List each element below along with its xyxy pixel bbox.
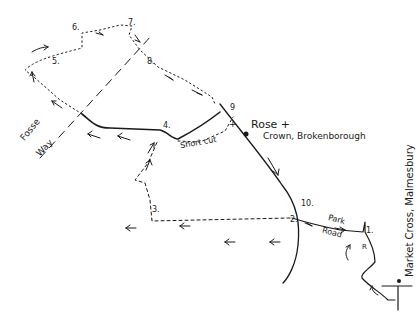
- route-marker-r: R: [362, 243, 367, 251]
- cross-marker: +: [229, 119, 237, 129]
- track-4-to-9: [82, 112, 220, 139]
- waypoint-4: 4.: [163, 121, 171, 130]
- pub-label: Rose +: [251, 118, 290, 131]
- waypoint-9: 9: [230, 103, 235, 112]
- waypoint-3: 3.: [152, 205, 160, 214]
- direction-arrows: [30, 32, 378, 295]
- waypoint-7: 7.: [128, 18, 136, 27]
- market-cross-dot: [397, 279, 401, 283]
- pub-marker: [244, 132, 249, 137]
- waypoint-1: 1.: [366, 226, 374, 235]
- fosse-way-line: [40, 35, 152, 158]
- pub-location-label: Crown, Brokenborough: [263, 131, 366, 141]
- market-cross-label: Market Cross, Malmesbury: [404, 144, 415, 277]
- waypoint-5: 5.: [52, 57, 60, 66]
- waypoint-10: 10.: [301, 199, 314, 208]
- walking-route-map: [0, 0, 420, 327]
- waypoint-2: 2.: [290, 215, 298, 224]
- park-road: [292, 218, 395, 300]
- waypoint-6: 6.: [72, 23, 80, 32]
- waypoint-8: 8.: [147, 57, 155, 66]
